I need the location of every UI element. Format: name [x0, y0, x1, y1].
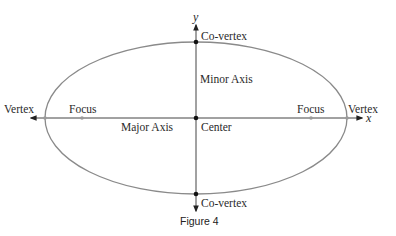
co-vertex-bottom-point — [194, 192, 199, 197]
vertex-left-point — [43, 116, 47, 120]
co-vertex-top-label: Co-vertex — [201, 30, 247, 42]
focus-right-label: Focus — [297, 103, 325, 115]
minor-axis-label: Minor Axis — [200, 73, 253, 85]
vertex-left-label: Vertex — [4, 103, 34, 115]
co-vertex-bottom-label: Co-vertex — [201, 197, 247, 209]
y-axis-label: y — [192, 10, 199, 24]
vertex-right-point — [345, 116, 349, 120]
vertex-right-label: Vertex — [348, 103, 378, 115]
focus-right-point — [309, 116, 313, 120]
major-axis-label: Major Axis — [121, 121, 174, 134]
center-label: Center — [201, 121, 232, 133]
figure-caption: Figure 4 — [180, 215, 219, 227]
ellipse-figure: y x Vertex Focus Focus Vertex Co-vertex … — [0, 0, 396, 236]
co-vertex-top-point — [194, 40, 199, 45]
focus-left-label: Focus — [69, 103, 97, 115]
center-point — [194, 116, 199, 121]
focus-left-point — [80, 116, 84, 120]
